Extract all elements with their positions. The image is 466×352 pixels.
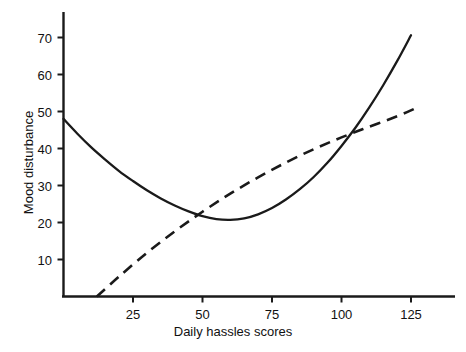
- y-axis-title: Mood disturbance: [21, 83, 36, 243]
- x-tick-label: 100: [331, 307, 353, 322]
- series-solid-curve: [64, 35, 412, 220]
- chart-figure: 10203040506070 255075100125 Mood disturb…: [0, 0, 466, 352]
- y-tick-label: 70: [18, 30, 52, 45]
- plot-area: [0, 0, 466, 352]
- x-tick-label: 25: [126, 307, 140, 322]
- y-tick-label: 10: [18, 252, 52, 267]
- x-tick-label: 75: [265, 307, 279, 322]
- x-axis-title: Daily hassles scores: [0, 324, 466, 339]
- x-tick-label: 125: [400, 307, 422, 322]
- axes-group: [62, 12, 455, 297]
- x-tick-label: 50: [195, 307, 209, 322]
- y-tick-label: 60: [18, 67, 52, 82]
- series-dashed-line: [97, 108, 417, 297]
